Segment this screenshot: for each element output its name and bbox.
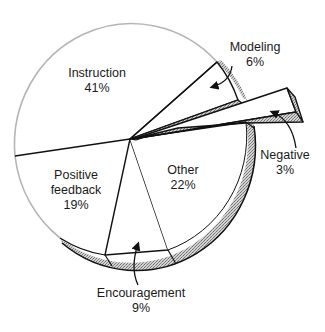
label-positive-pct: 19% <box>51 198 102 213</box>
label-positive-line1: Positive <box>51 168 102 183</box>
label-encouragement: Encouragement 9% <box>97 286 185 316</box>
label-other-name: Other <box>167 163 198 178</box>
label-encouragement-name: Encouragement <box>97 286 185 301</box>
label-positive-line2: feedback <box>51 183 102 198</box>
label-other-pct: 22% <box>167 178 198 193</box>
label-negative-pct: 3% <box>260 163 309 178</box>
label-instruction: Instruction 41% <box>68 66 126 96</box>
label-positive-feedback: Positive feedback 19% <box>51 168 102 213</box>
label-negative: Negative 3% <box>260 148 309 178</box>
label-modeling-name: Modeling <box>230 40 281 55</box>
label-negative-name: Negative <box>260 148 309 163</box>
label-other: Other 22% <box>167 163 198 193</box>
label-encouragement-pct: 9% <box>97 301 185 316</box>
label-modeling: Modeling 6% <box>230 40 281 70</box>
label-instruction-pct: 41% <box>68 81 126 96</box>
label-modeling-pct: 6% <box>230 55 281 70</box>
label-instruction-name: Instruction <box>68 66 126 81</box>
